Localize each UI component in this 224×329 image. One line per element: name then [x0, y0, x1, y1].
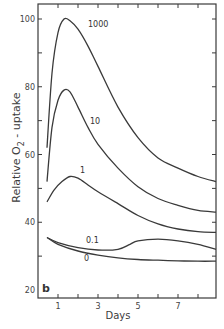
x-tick-label: 5 — [135, 302, 140, 311]
y-axis-label-part1: Relative O — [10, 146, 23, 203]
curve-0_1 — [47, 237, 216, 250]
curve-label: 1 — [80, 166, 85, 175]
y-tick-label: 80 — [25, 83, 35, 92]
axis-ticks — [38, 4, 216, 298]
curve-label: 0 — [84, 254, 89, 263]
x-axis-label: Days — [106, 310, 131, 321]
curve-label: 10 — [90, 117, 100, 126]
x-tick-label: 7 — [175, 302, 180, 311]
data-curves — [47, 18, 216, 261]
x-tick-label: 1 — [55, 302, 60, 311]
curve-1 — [47, 176, 216, 232]
curve-label: 1000 — [88, 20, 108, 29]
curve-labels: 10001010.10 — [80, 20, 108, 263]
y-tick-label: 40 — [25, 218, 35, 227]
plot-frame — [38, 4, 216, 298]
curve-10 — [47, 89, 216, 212]
tick-labels: 135720406080100 — [20, 15, 181, 311]
x-tick-label: 3 — [95, 302, 100, 311]
y-axis-label-part2: - uptake — [10, 92, 23, 141]
y-tick-label: 60 — [25, 151, 35, 160]
chart: 135720406080100 10001010.10 b Days — [0, 0, 224, 329]
y-tick-label: 100 — [20, 15, 35, 24]
y-axis-label-subscript: 2 — [17, 141, 26, 146]
y-tick-label: 20 — [25, 286, 35, 295]
y-axis-label: Relative O2 - uptake — [10, 78, 25, 218]
curve-1000 — [47, 18, 216, 181]
panel-label: b — [42, 282, 50, 295]
curve-label: 0.1 — [86, 236, 99, 245]
curve-0 — [47, 237, 216, 261]
